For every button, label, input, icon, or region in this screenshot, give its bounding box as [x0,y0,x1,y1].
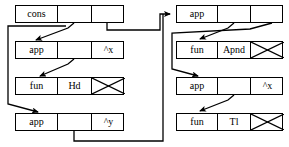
cell-label: fun [190,45,203,55]
edge-app-tl-right-to-fun-tl [200,95,234,111]
fun-hd-node: funHd [15,77,124,95]
cell-label: Hd [68,81,80,91]
app-function-pointer-cell [218,78,251,94]
variable-label: ^x [104,45,114,55]
app-function-pointer-cell [218,6,251,22]
app-argument-cell: ^x [92,42,125,58]
app-hd-node: app^x [15,41,124,59]
fun-nil-cell [251,114,284,130]
app-function-pointer-cell [58,114,92,130]
cons-right-pointer-cell [92,6,125,22]
cons-left-pointer-cell [58,6,92,22]
app-tl-node: app^y [15,113,124,131]
nil-cross-icon [92,78,125,94]
cell-label: app [190,81,204,91]
edge-app-hd-to-fun-hd [40,59,74,76]
cons-tag-cell: cons [16,6,58,22]
fun-tag-cell: fun [177,42,218,58]
fun-nil-cell [92,78,125,94]
app-tl-right-node: app^x [176,77,283,95]
fun-name-cell: Tl [218,114,251,130]
nil-cross-icon [251,114,284,130]
app-argument-pointer-cell [251,6,284,22]
app-tag-cell: app [177,78,218,94]
fun-name-cell: Apnd [218,42,251,58]
fun-nil-cell [251,42,284,58]
fun-name-cell: Hd [58,78,92,94]
cons-node: cons [15,5,124,23]
fun-tag-cell: fun [177,114,218,130]
cell-label: app [29,45,43,55]
variable-label: ^x [263,81,273,91]
app-apnd-node: app [176,5,283,23]
cell-label: app [190,9,204,19]
app-argument-cell: ^y [92,114,125,130]
graph-reduction-diagram: consapp^xfunHdapp^yappfunApndapp^xfunTl [0,0,289,147]
app-function-pointer-cell [58,42,92,58]
fun-tag-cell: fun [16,78,58,94]
cell-label: Apnd [223,45,245,55]
cell-label: fun [190,117,203,127]
app-tag-cell: app [16,114,58,130]
cell-label: app [29,117,43,127]
fun-apnd-node: funApnd [176,41,283,59]
nil-cross-icon [251,42,284,58]
app-tag-cell: app [16,42,58,58]
cell-label: Tl [230,117,239,127]
cell-label: cons [27,9,45,19]
edge-cons-left-to-app-hd [36,23,74,40]
edge-app-apnd-fn-to-fun-apnd [200,23,234,39]
app-argument-cell: ^x [251,78,284,94]
fun-tl-node: funTl [176,113,283,131]
app-tag-cell: app [177,6,218,22]
edge-cons-left-to-app-tl [8,26,66,112]
cell-label: fun [30,81,43,91]
variable-label: ^y [104,117,114,127]
